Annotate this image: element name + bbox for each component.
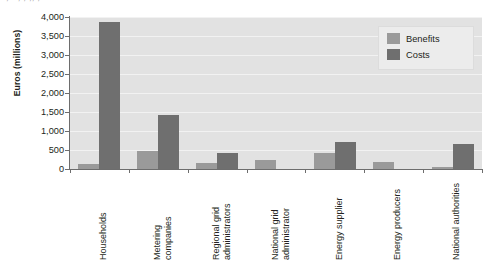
x-axis-tick-mark xyxy=(70,169,71,173)
bar-costs xyxy=(453,144,474,169)
x-axis-category-labels: HouseholdsMeteringcompaniesRegional grid… xyxy=(0,176,488,263)
legend-swatch-costs-icon xyxy=(387,49,400,60)
x-axis-category-label: National gridadministrator xyxy=(270,208,291,260)
x-axis-tick-mark xyxy=(305,169,306,173)
bar-costs xyxy=(335,142,356,169)
y-axis-tick-label: 4,000 xyxy=(18,13,64,22)
y-axis-tick-mark xyxy=(65,112,69,113)
x-axis-category-label-line: National grid xyxy=(270,208,281,260)
y-axis-tick-label: 500 xyxy=(18,146,64,155)
x-axis-category-label-line: Regional grid xyxy=(211,203,222,260)
legend: Benefits Costs xyxy=(378,26,474,70)
bar-benefits xyxy=(137,151,158,169)
x-axis-category-label-line: administrators xyxy=(221,203,232,260)
legend-item-costs: Costs xyxy=(387,49,473,60)
y-axis-tick-label: 0 xyxy=(18,165,64,174)
x-axis-category-label-line: companies xyxy=(162,216,173,260)
legend-label-benefits: Benefits xyxy=(406,34,440,44)
y-axis-tick-mark xyxy=(65,93,69,94)
y-axis-tick-label: 3,500 xyxy=(18,32,64,41)
y-axis-tick-mark xyxy=(65,131,69,132)
x-axis-category-label: Regional gridadministrators xyxy=(211,203,232,260)
y-axis-line xyxy=(69,16,70,170)
bar-benefits xyxy=(314,153,335,169)
x-axis-category-label: Energy producers xyxy=(392,189,403,260)
x-axis-category-label-line: Energy producers xyxy=(392,189,403,260)
y-axis-tick-mark xyxy=(65,55,69,56)
y-axis-tick-mark xyxy=(65,17,69,18)
y-axis-tick-label: 1,000 xyxy=(18,127,64,136)
caption-remnant: · , · , , ,, , xyxy=(0,0,488,3)
x-axis-tick-mark xyxy=(482,169,483,173)
y-axis-tick-mark xyxy=(65,150,69,151)
bar-costs xyxy=(99,22,120,169)
y-axis-tick-mark xyxy=(65,36,69,37)
x-axis-tick-mark xyxy=(364,169,365,173)
x-axis-category-label: Energy supplier xyxy=(334,197,345,260)
bar-benefits xyxy=(373,162,394,169)
legend-swatch-benefits-icon xyxy=(387,33,400,44)
x-axis-tick-mark xyxy=(423,169,424,173)
bar-costs xyxy=(217,153,238,169)
bar-chart: · , · , , ,, , Euros (millions) 4,0003,5… xyxy=(0,0,488,263)
x-axis-category-label: Meteringcompanies xyxy=(152,216,173,260)
legend-label-costs: Costs xyxy=(406,50,430,60)
x-axis-category-label-line: Energy supplier xyxy=(334,197,345,260)
x-axis-line xyxy=(69,169,482,170)
y-axis-tick-mark xyxy=(65,74,69,75)
legend-item-benefits: Benefits xyxy=(387,33,473,44)
x-axis-category-label-line: National authorities xyxy=(451,183,462,260)
x-axis-tick-mark xyxy=(129,169,130,173)
y-axis-tick-label: 1,500 xyxy=(18,108,64,117)
x-axis-category-label-line: Households xyxy=(98,212,109,260)
x-axis-tick-mark xyxy=(247,169,248,173)
x-axis-category-label-line: Metering xyxy=(152,216,163,260)
y-axis-tick-label: 2,000 xyxy=(18,89,64,98)
y-axis-tick-label: 3,000 xyxy=(18,51,64,60)
y-axis-tick-mark xyxy=(65,169,69,170)
bar-costs xyxy=(158,115,179,169)
x-axis-category-label-line: administrator xyxy=(280,208,291,260)
x-axis-tick-mark xyxy=(188,169,189,173)
bar-benefits xyxy=(255,160,276,169)
x-axis-category-label: Households xyxy=(98,212,109,260)
y-axis-tick-label: 2,500 xyxy=(18,70,64,79)
x-axis-category-label: National authorities xyxy=(451,183,462,260)
